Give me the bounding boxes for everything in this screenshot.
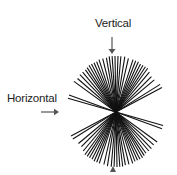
radiating-lines — [68, 56, 163, 167]
vertical-arrow-icon — [109, 37, 116, 54]
bottom-arrow-icon — [110, 166, 116, 172]
horizontal-arrow-icon — [41, 109, 59, 115]
orientation-diagram — [0, 0, 177, 175]
